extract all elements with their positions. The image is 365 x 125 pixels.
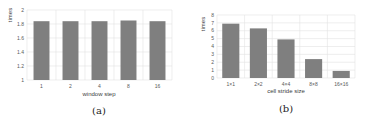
chart-b-y-axis-label: times [200,17,206,31]
chart-b-y-tick-label: 4 [211,43,214,49]
chart-b-x-axis-label: cell stride size [267,88,305,94]
chart-b-x-tick-label: 2×2 [254,81,263,87]
chart-a-y-tick-label: 1.2 [17,63,24,69]
chart-b-bar-2 [277,39,294,78]
chart-a-y-tick-label: 1.6 [17,35,24,41]
chart-b-caption: (b) [279,103,293,114]
chart-b: 012345678 1×12×24×48×816×16 cell stride … [200,12,355,114]
chart-a-caption: (a) [92,105,106,116]
chart-b-y-tick-label: 2 [211,59,214,65]
chart-b-bar-3 [305,59,322,78]
chart-a-x-axis-label: window step [81,91,116,97]
chart-b-y-tick-label: 3 [211,51,214,57]
chart-a-y-tick-label: 1.4 [17,49,24,55]
chart-a-bar-2 [92,21,108,80]
chart-b-y-tick-label: 7 [211,20,214,26]
chart-a-bar-3 [121,21,137,81]
chart-b-y-tick-label: 6 [211,27,214,33]
chart-b-y-tick-label: 1 [211,67,214,73]
chart-b-bar-4 [333,71,350,78]
chart-a-bars [34,21,166,81]
chart-b-x-tick-label: 8×8 [309,81,318,87]
chart-a-x-tick-label: 4 [98,83,101,89]
chart-b-x-tick-label: 16×16 [334,81,348,87]
chart-b-x-tick-label: 1×1 [227,81,236,87]
chart-b-y-tick-label: 8 [211,12,214,18]
chart-a-x-tick-label: 8 [127,83,130,89]
chart-b-y-ticks: 012345678 [211,12,214,81]
chart-a-x-tick-label: 1 [40,83,43,89]
chart-a-bar-0 [34,21,50,80]
chart-a: 11.21.41.61.82 124816 window step times … [7,7,172,116]
chart-a-x-ticks: 124816 [40,83,160,89]
chart-b-y-tick-label: 0 [211,75,214,81]
chart-b-bar-1 [250,28,267,78]
chart-b-y-tick-label: 5 [211,35,214,41]
chart-a-x-tick-label: 2 [69,83,72,89]
chart-a-y-ticks: 11.21.41.61.82 [17,7,24,83]
chart-a-x-tick-label: 16 [155,83,161,89]
chart-b-x-tick-label: 4×4 [282,81,291,87]
chart-a-y-axis-label: times [7,8,13,22]
chart-a-y-tick-label: 2 [21,7,24,13]
chart-a-y-tick-label: 1 [21,77,24,83]
chart-b-x-ticks: 1×12×24×48×816×16 [227,81,349,87]
chart-b-bar-0 [222,24,239,78]
chart-a-bar-1 [63,21,79,80]
chart-a-bar-4 [150,21,166,80]
chart-a-y-tick-label: 1.8 [17,21,24,27]
figure: 11.21.41.61.82 124816 window step times … [0,0,365,125]
